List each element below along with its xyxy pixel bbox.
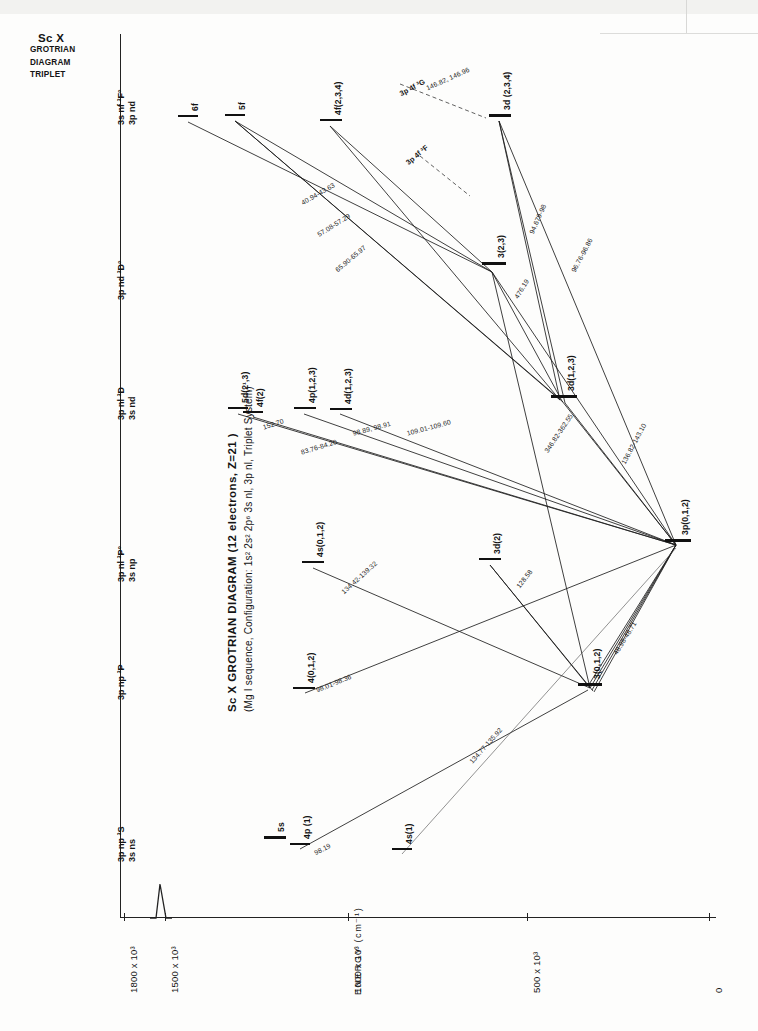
level-3d-234: [489, 114, 511, 117]
level-3d-2: [479, 558, 501, 560]
level-3-012: [578, 683, 602, 686]
level-3-23-label: 3(2,3): [496, 235, 506, 258]
level-3d-234-label: 3d (2,3,4): [502, 72, 512, 110]
level-3p-012: [665, 539, 691, 542]
level-5d-213: [228, 407, 248, 409]
level-3-012-label: 3(0,1,2): [592, 649, 602, 679]
level-3p-012-label: 3p(0,1,2): [680, 499, 690, 535]
level-5s: [264, 836, 286, 839]
level-4d-123: [330, 408, 352, 410]
transition-lines: [0, 0, 758, 1031]
level-4s-012-label: 4s(0,1,2): [315, 522, 325, 557]
level-5f-label: 5f: [237, 102, 247, 110]
level-4-012-label: 4(0,1,2): [306, 653, 316, 683]
level-4p-123: [294, 407, 316, 409]
level-4f-234: [320, 119, 342, 121]
level-4s-1-label: 4s(1): [404, 823, 414, 844]
level-3d-2-label: 3d(2): [492, 533, 502, 554]
level-4p-1-label: 4p (1): [302, 815, 312, 839]
level-5f: [225, 114, 245, 116]
level-3d-123-label: 3d(1,2,3): [566, 355, 576, 391]
level-5d-213-label: 5d(2¹,3): [240, 372, 250, 403]
level-6f-label: 6f: [190, 103, 200, 111]
level-4f-2-label: 4f(2): [255, 388, 265, 407]
level-4f-2: [243, 411, 263, 413]
level-4s-012: [302, 561, 324, 563]
level-3d-123: [551, 395, 577, 398]
level-4p-1: [290, 843, 310, 845]
level-4s-1: [392, 848, 412, 850]
level-4d-123-label: 4d(1,2,3): [343, 368, 353, 404]
level-6f: [178, 115, 198, 117]
level-4f-234-label: 4f(2,3,4): [333, 82, 343, 115]
level-3-23: [482, 262, 506, 265]
grotrian-diagram-page: Sc X GROTRIAN DIAGRAM TRIPLET 1800 x 10³…: [0, 0, 758, 1031]
level-5s-label: 5s: [276, 822, 286, 832]
level-4p-123-label: 4p(1,2,3): [307, 367, 317, 403]
level-4-012: [293, 687, 315, 689]
